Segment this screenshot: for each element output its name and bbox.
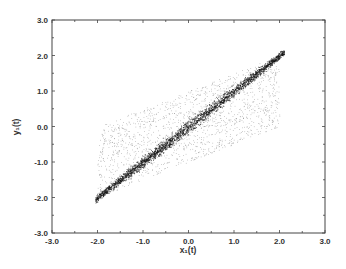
- y-tick-label: 0.0: [37, 123, 49, 132]
- x-tick-label: -2.0: [91, 237, 105, 246]
- x-tick-label: -3.0: [45, 237, 59, 246]
- y-tick-label: 2.0: [37, 52, 49, 61]
- y-tick-labels: 3.02.01.00.0-1.0-2.0-3.0: [34, 16, 48, 238]
- y-tick-label: 3.0: [37, 16, 49, 25]
- y-tick-label: -1.0: [34, 158, 48, 167]
- scatter-points: [95, 51, 285, 204]
- x-tick-label: 3.0: [319, 237, 331, 246]
- y-axis-label: y₁(t): [11, 118, 21, 135]
- x-axis-label: x₁(t): [180, 245, 197, 255]
- y-tick-label: -2.0: [34, 194, 48, 203]
- x-tick-label: 2.0: [274, 237, 286, 246]
- y-tick-label: -3.0: [34, 229, 48, 238]
- x-tick-label: -1.0: [136, 237, 150, 246]
- x-tick-label: 1.0: [228, 237, 240, 246]
- scatter-chart: -3.0-2.0-1.00.01.02.03.0 3.02.01.00.0-1.…: [0, 0, 346, 269]
- y-tick-label: 1.0: [37, 87, 49, 96]
